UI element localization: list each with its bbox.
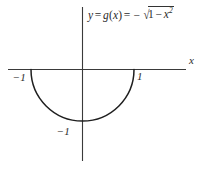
equation-label: y=g(x)=−√1−x2 xyxy=(88,7,174,21)
equation-radical: √1−x2 xyxy=(142,7,174,21)
graph-canvas xyxy=(0,0,203,171)
x-tick-label-one: 1 xyxy=(137,71,143,82)
equation-equals-1: = xyxy=(93,9,103,21)
x-tick-label-negative-one: −1 xyxy=(13,72,26,83)
radicand-exponent: 2 xyxy=(169,6,173,15)
equation-radicand: 1−x2 xyxy=(148,6,174,20)
x-axis-label: x xyxy=(189,55,194,66)
equation-equals-2: = xyxy=(122,9,132,21)
y-tick-label-negative-one: −1 xyxy=(57,126,70,137)
equation-leading-minus: − xyxy=(132,9,142,21)
radicand-minus: − xyxy=(154,8,164,20)
x-tick-negative-one-value: 1 xyxy=(20,71,26,83)
y-tick-negative-one-value: 1 xyxy=(64,125,70,137)
function-graph-figure: y=g(x)=−√1−x2 −1 1 −1 x xyxy=(0,0,203,171)
